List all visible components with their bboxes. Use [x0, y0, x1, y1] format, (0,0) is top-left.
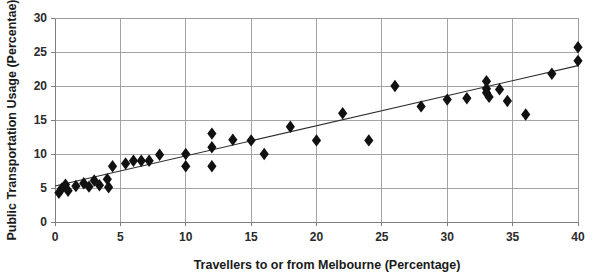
x-tick-label: 10	[179, 230, 193, 244]
y-tick-label: 15	[34, 113, 48, 127]
x-tick-label: 15	[244, 230, 258, 244]
x-tick-label: 5	[117, 230, 124, 244]
x-tick-label: 0	[52, 230, 59, 244]
x-tick-label: 40	[571, 230, 585, 244]
y-tick-label: 10	[34, 147, 48, 161]
x-tick-label: 25	[375, 230, 389, 244]
y-axis-title: Public Transportation Usage (Percentae)	[5, 0, 19, 241]
scatter-chart: 051015202530 0510152025303540 Travellers…	[0, 0, 603, 279]
y-tick-label: 20	[34, 79, 48, 93]
y-tick-label: 5	[40, 181, 47, 195]
y-tick-label: 0	[40, 215, 47, 229]
chart-canvas: 051015202530 0510152025303540 Travellers…	[0, 0, 603, 279]
x-tick-label: 30	[441, 230, 455, 244]
x-axis-title: Travellers to or from Melbourne (Percent…	[194, 258, 461, 272]
y-tick-label: 25	[34, 45, 48, 59]
x-tick-label: 20	[310, 230, 324, 244]
y-tick-label: 30	[34, 11, 48, 25]
x-tick-label: 35	[506, 230, 520, 244]
